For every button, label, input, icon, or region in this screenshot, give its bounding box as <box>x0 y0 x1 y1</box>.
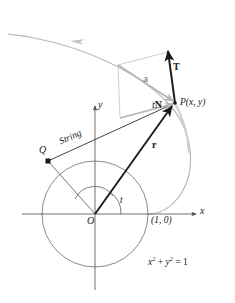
diagram-svg <box>0 0 235 303</box>
vector-tN-N-part: N <box>155 99 162 110</box>
point-Q-marker <box>46 159 51 164</box>
vector-a-label: a <box>143 74 148 84</box>
point-P-marker <box>173 101 177 105</box>
vector-T <box>168 51 175 103</box>
vector-T-label: T <box>173 62 180 72</box>
y-axis-label: y <box>98 100 102 110</box>
point-q-label: Q <box>39 145 46 155</box>
eq-plus: + <box>155 257 165 267</box>
point-one-zero-label: (1, 0) <box>151 216 172 226</box>
origin-label: O <box>87 216 94 226</box>
eq-equals: = 1 <box>173 257 188 267</box>
spiral-direction-arrow <box>70 39 85 45</box>
angle-t-label: t <box>120 196 123 206</box>
x-axis-label: x <box>200 206 204 216</box>
involute-figure: y x O Q P(x, y) (1, 0) t String r T a tN… <box>0 0 235 303</box>
vector-r-label: r <box>152 140 156 150</box>
point-p-label: P(x, y) <box>180 98 205 108</box>
circle-equation-label: x2 + y2 = 1 <box>148 256 188 268</box>
vector-tN-label: tN <box>152 100 162 110</box>
involute-curve-lower <box>175 103 189 152</box>
